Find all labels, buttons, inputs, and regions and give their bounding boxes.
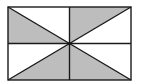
center-point bbox=[68, 42, 71, 45]
divided-rectangle-diagram bbox=[0, 0, 141, 84]
